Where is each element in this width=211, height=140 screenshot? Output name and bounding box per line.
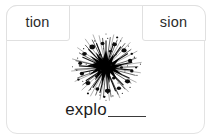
choice-box-tion[interactable]: tion	[6, 5, 70, 41]
answer-blank[interactable]	[108, 116, 146, 117]
explosion-burst-icon	[63, 28, 149, 102]
worksheet-card: tion sion	[6, 5, 205, 134]
choice-label-tion: tion	[25, 15, 49, 30]
choice-box-sion[interactable]: sion	[142, 5, 206, 41]
answer-prompt: explo	[7, 100, 204, 120]
choice-label-sion: sion	[160, 15, 187, 30]
word-stem: explo	[65, 100, 107, 119]
